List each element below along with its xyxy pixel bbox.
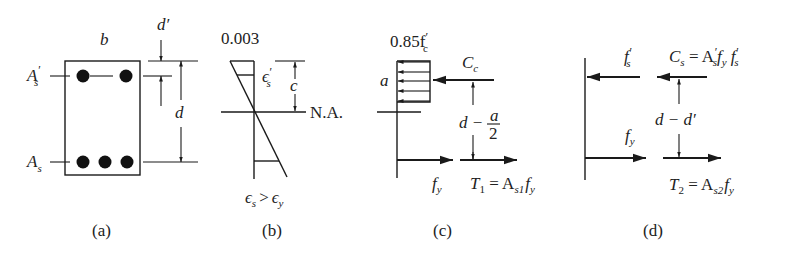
- cover-depth-label: d′: [157, 15, 170, 34]
- rebar-top-1: [77, 70, 90, 83]
- tension-steel-force-label: T2 = As2fy: [669, 175, 734, 196]
- comp-steel-force-label: Cs = A′sfy f′s: [669, 45, 739, 68]
- neutral-axis-label: N.A.: [310, 103, 343, 122]
- stress-block-label: 0.85f′c: [390, 30, 428, 54]
- panel-d-caption: (d): [643, 221, 663, 240]
- tension-strain-label: ϵs>ϵy: [245, 188, 284, 209]
- panel-b-caption: (b): [262, 221, 282, 240]
- steel-stress-label: fy: [432, 174, 442, 195]
- width-label: b: [100, 30, 109, 49]
- max-strain-label: 0.003: [221, 29, 259, 48]
- rebar-top-2: [120, 70, 133, 83]
- tension-steel-label: As: [26, 152, 42, 174]
- doubly-reinforced-beam-figure: b A′s As d′ d (a) 0.003: [0, 0, 792, 256]
- tension-steel-stress-label: fy: [625, 126, 635, 147]
- panel-b-strain-diagram: 0.003 ϵ′s c N.A. ϵs>ϵy (b): [221, 29, 343, 240]
- na-depth-label: c: [290, 76, 298, 95]
- panel-a-caption: (a): [92, 221, 111, 240]
- lever-arm-label-den: 2: [489, 124, 498, 143]
- compression-force-label: Cc: [462, 53, 478, 74]
- comp-steel-label: A′s: [26, 63, 40, 88]
- strain-profile-line: [230, 61, 287, 177]
- tension-force-label: T1 = As1fy: [470, 174, 535, 195]
- panel-d-steel-couple: f′s Cs = A′sfy f′s d − d′ fy T2 = As2fy …: [585, 45, 739, 240]
- rebar-bottom-1: [77, 156, 90, 169]
- rebar-bottom-2: [99, 156, 112, 169]
- steel-lever-arm-label: d − d′: [655, 110, 696, 129]
- panel-c-stress-block: 0.85f′c a Cc d − a 2 fy T1 = As1fy: [377, 30, 535, 240]
- lever-arm-label-d: d −: [459, 113, 483, 132]
- effective-depth-label: d: [175, 103, 184, 122]
- lever-arm-label-num: a: [490, 106, 499, 125]
- comp-steel-strain-label: ϵ′s: [262, 65, 272, 89]
- panel-c-caption: (c): [433, 221, 452, 240]
- panel-a-cross-section: b A′s As d′ d (a): [26, 15, 198, 240]
- rebar-bottom-3: [121, 156, 134, 169]
- comp-steel-stress-label: f′s: [624, 45, 632, 69]
- block-depth-label: a: [380, 71, 389, 90]
